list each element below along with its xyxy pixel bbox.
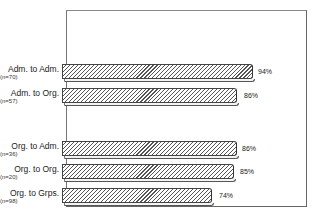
bar	[62, 164, 234, 179]
value-label: 74%	[219, 192, 233, 199]
value-label: 94%	[258, 68, 272, 75]
sample-size-label: (n=98)	[0, 198, 18, 204]
sample-size-label: (n=20)	[0, 174, 18, 180]
value-label: 85%	[240, 168, 254, 175]
category-label: Adm. to Org.	[11, 88, 59, 98]
bar	[62, 88, 237, 103]
bar-shadow	[64, 103, 239, 106]
bar-shadow	[64, 156, 239, 159]
bar-shadow	[64, 203, 214, 206]
bar-row-org-to-adm: Org. to Adm. (n=36) 86%	[0, 141, 321, 165]
category-label: Org. to Org.	[14, 164, 59, 174]
bar	[62, 64, 253, 79]
sample-size-label: (n=36)	[0, 151, 18, 157]
category-label: Adm. to Adm.	[8, 64, 59, 74]
sample-size-label: (n=57)	[0, 98, 18, 104]
category-label: Org. to Adm.	[11, 141, 59, 151]
bar-row-org-to-org: Org. to Org. (n=20) 85%	[0, 164, 321, 188]
bar-shadow	[64, 79, 255, 82]
value-label: 86%	[242, 145, 256, 152]
value-label: 86%	[244, 92, 258, 99]
bar-row-adm-to-adm: Adm. to Adm. (n=70) 94%	[0, 64, 321, 88]
bar-row-adm-to-org: Adm. to Org. (n=57) 86%	[0, 88, 321, 112]
bar	[62, 141, 237, 156]
sample-size-label: (n=70)	[0, 74, 18, 80]
bar-row-org-to-grps: Org. to Grps. (n=98) 74%	[0, 188, 321, 212]
bar-shadow	[64, 179, 236, 182]
category-label: Org. to Grps.	[10, 188, 59, 198]
bar	[62, 188, 212, 203]
